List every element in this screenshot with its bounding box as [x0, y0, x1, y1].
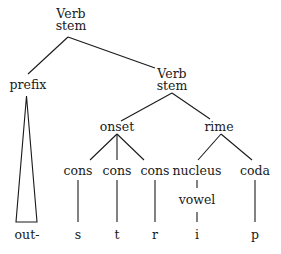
- leaf-t: t: [114, 229, 119, 241]
- edge-rime-nucleus: [198, 134, 221, 160]
- node-cons-1: cons: [64, 165, 93, 177]
- node-vowel: vowel: [179, 194, 216, 206]
- edge-onset-cons3: [117, 134, 144, 160]
- leaf-i: i: [195, 229, 199, 241]
- node-verb-stem-root: Verb stem: [56, 8, 87, 32]
- edge-onset-cons1: [90, 134, 117, 160]
- edge-root-prefix: [28, 37, 68, 74]
- leaf-p: p: [251, 229, 259, 241]
- node-label: stem: [157, 80, 188, 92]
- node-cons-3: cons: [141, 165, 170, 177]
- edge-root-stem: [68, 37, 155, 68]
- node-cons-2: cons: [103, 165, 132, 177]
- edge-rime-coda: [221, 134, 252, 160]
- prefix-triangle: [16, 96, 37, 222]
- tree-edges: [0, 0, 281, 254]
- node-nucleus: nucleus: [173, 165, 222, 177]
- node-coda: coda: [240, 165, 270, 177]
- node-verb-stem: Verb stem: [157, 68, 188, 92]
- node-rime: rime: [204, 121, 233, 133]
- node-onset: onset: [100, 121, 134, 133]
- tree-diagram: Verb stem prefix Verb stem onset rime co…: [0, 0, 281, 254]
- leaf-out: out-: [15, 229, 40, 241]
- node-prefix: prefix: [10, 79, 47, 91]
- leaf-r: r: [152, 229, 158, 241]
- node-label: stem: [56, 20, 87, 32]
- edge-stem-onset: [121, 93, 172, 121]
- leaf-s: s: [75, 229, 81, 241]
- edge-stem-rime: [172, 93, 210, 119]
